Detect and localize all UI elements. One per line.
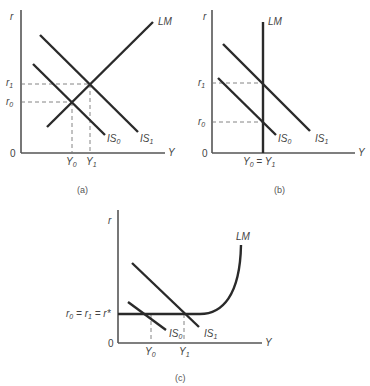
panel-a: r Y 0 LM IS0 IS1 r1 r0 Y0 Y1 (a) [6,10,176,195]
panel-b-is1-curve [223,44,310,131]
panel-b-y-axis-label: r [203,11,207,22]
panel-b: r Y 0 LM IS0 IS1 r1 r0 Y0 = Y1 (b) [198,10,366,195]
panel-a-caption: (a) [77,185,88,195]
panel-b-caption: (b) [274,185,285,195]
panel-b-origin-label: 0 [202,148,208,159]
panel-a-r0-label: r0 [6,96,13,108]
panel-c-is1-curve [132,263,199,327]
panel-a-is1-curve [40,35,138,132]
panel-a-origin-label: 0 [10,148,16,159]
panel-b-r0-label: r0 [198,116,205,128]
panel-c-caption: (c) [175,373,186,383]
panel-c-lm-label: LM [236,231,251,242]
panel-b-is0-curve [218,78,276,135]
panel-a-x-axis-label: Y [168,147,176,158]
panel-a-is0-label: IS0 [107,133,120,145]
panel-a-is0-curve [33,64,105,135]
panel-a-y-axis-label: r [10,11,14,22]
panel-c: r Y 0 LM IS0 IS1 r0 = r1 = r* Y0 Y1 (c) [66,210,273,383]
panel-c-is1-label: IS1 [204,328,217,340]
panel-a-r1-label: r1 [6,77,13,89]
panel-a-lm-label: LM [158,16,173,27]
panel-c-r-star-label: r0 = r1 = r* [66,308,112,320]
panel-b-is1-label: IS1 [315,133,328,145]
panel-b-r1-label: r1 [198,77,205,89]
panel-c-y-axis-label: r [108,215,112,226]
panel-c-lm-curve [118,245,241,314]
panel-a-lm-curve [47,22,153,127]
islm-figure: r Y 0 LM IS0 IS1 r1 r0 Y0 Y1 (a) r Y 0 [0,0,370,386]
panel-c-x-axis-label: Y [265,337,273,348]
panel-c-is0-label: IS0 [169,328,182,340]
panel-b-is0-label: IS0 [278,133,291,145]
panel-a-y0-label: Y0 [66,156,77,168]
panel-c-origin-label: 0 [108,338,114,349]
panel-a-is1-label: IS1 [140,133,153,145]
panel-c-y1-label: Y1 [179,346,190,358]
panel-b-x-axis-label: Y [358,147,366,158]
panel-c-is0-curve [128,302,166,330]
panel-c-y0-label: Y0 [145,346,156,358]
panel-b-y0-equals-y1-label: Y0 = Y1 [243,156,275,168]
panel-a-y1-label: Y1 [86,156,97,168]
panel-b-lm-label: LM [268,16,283,27]
